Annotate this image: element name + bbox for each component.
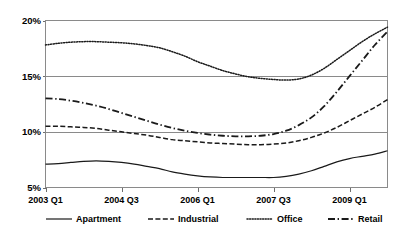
x-tick-label-3: 2007 Q3 xyxy=(256,195,291,205)
chart-canvas: 5%10%15%20% 2003 Q12004 Q32006 Q12007 Q3… xyxy=(0,0,401,242)
chart-background xyxy=(0,0,401,242)
vacancy-rate-chart: 5%10%15%20% 2003 Q12004 Q32006 Q12007 Q3… xyxy=(0,0,401,242)
x-tick-label-4: 2009 Q1 xyxy=(332,195,367,205)
legend-label-office: Office xyxy=(277,214,303,224)
x-tick-label-1: 2004 Q3 xyxy=(104,195,139,205)
legend-label-industrial: Industrial xyxy=(178,214,219,224)
y-tick-label-20: 20% xyxy=(22,15,42,26)
x-tick-label-0: 2003 Q1 xyxy=(28,195,63,205)
x-tick-label-2: 2006 Q1 xyxy=(180,195,215,205)
y-tick-label-5: 5% xyxy=(27,182,41,193)
y-tick-label-10: 10% xyxy=(22,126,42,137)
legend-label-apartment: Apartment xyxy=(76,214,121,224)
y-tick-label-15: 15% xyxy=(22,71,42,82)
legend-label-retail: Retail xyxy=(358,214,383,224)
